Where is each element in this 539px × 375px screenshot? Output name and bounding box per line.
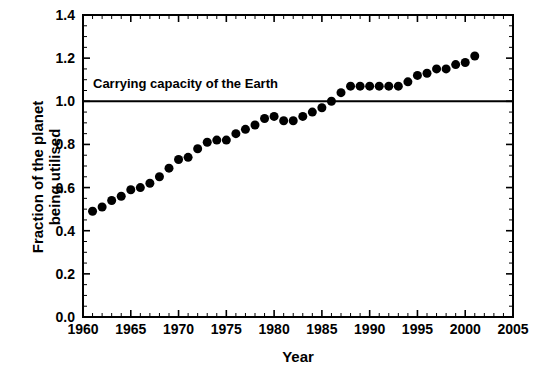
annotation-carrying-capacity: Carrying capacity of the Earth bbox=[93, 76, 278, 91]
y-axis-tick-label: 0.6 bbox=[27, 181, 75, 195]
chart-figure: Fraction of the planet being utilised 0.… bbox=[0, 0, 539, 375]
y-axis-tick-label: 1.4 bbox=[27, 8, 75, 22]
y-axis-tick-label: 0.2 bbox=[27, 267, 75, 281]
y-axis-tick-label: 1.2 bbox=[27, 51, 75, 65]
axes-frame bbox=[83, 15, 513, 317]
major-ticks bbox=[83, 15, 513, 317]
x-axis-tick-label: 2005 bbox=[483, 322, 539, 336]
x-axis-title: Year bbox=[83, 348, 513, 365]
y-axis-tick-label: 1.0 bbox=[27, 94, 75, 108]
y-axis-tick-label: 0.4 bbox=[27, 224, 75, 238]
plot-area bbox=[0, 0, 539, 375]
y-axis-tick-label: 0.8 bbox=[27, 137, 75, 151]
y-axis-tick-labels: 0.00.20.40.60.81.01.21.4 bbox=[20, 0, 75, 375]
minor-ticks bbox=[83, 15, 513, 317]
